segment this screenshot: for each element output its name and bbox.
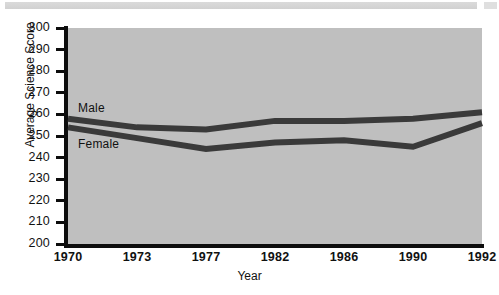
series-line-male bbox=[68, 112, 482, 129]
x-axis-title: Year bbox=[0, 269, 499, 283]
series-label-male: Male bbox=[78, 101, 105, 115]
data-series-lines bbox=[0, 0, 499, 295]
line-chart: 300290280270260250240230220210200 197019… bbox=[0, 0, 499, 295]
y-axis-title: Average Science Score bbox=[23, 0, 37, 185]
chart-page: 300290280270260250240230220210200 197019… bbox=[0, 0, 499, 295]
series-label-female: Female bbox=[78, 137, 119, 151]
